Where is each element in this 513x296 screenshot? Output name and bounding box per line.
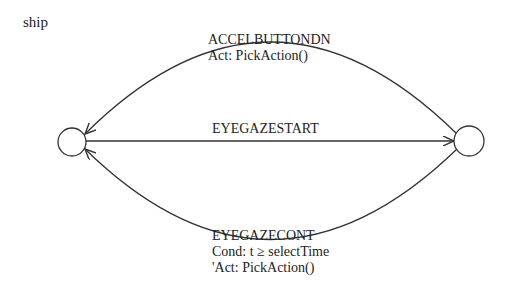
transition-label-middle: EYEGAZESTART — [212, 121, 319, 137]
transition-arc-bottom[interactable] — [85, 149, 457, 240]
state-right[interactable] — [454, 126, 484, 156]
transition-label-top: ACCELBUTTONDN Act: PickAction() — [208, 32, 331, 64]
transition-event-middle: EYEGAZESTART — [212, 121, 319, 137]
transition-label-bottom: EYEGAZECONT Cond: t ≥ selectTime 'Act: P… — [212, 228, 329, 276]
transition-action-bottom: 'Act: PickAction() — [212, 260, 329, 276]
transition-event-bottom: EYEGAZECONT — [212, 228, 329, 244]
transition-event-top: ACCELBUTTONDN — [208, 32, 331, 48]
state-left[interactable] — [58, 128, 86, 156]
transition-condition-bottom: Cond: t ≥ selectTime — [212, 244, 329, 260]
transition-action-top: Act: PickAction() — [208, 48, 331, 64]
